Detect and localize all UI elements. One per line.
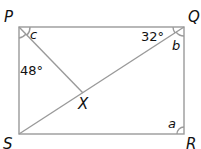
- angle-label-b: b: [172, 38, 180, 53]
- angle-arc-32: [173, 27, 175, 33]
- label-r: R: [186, 135, 196, 149]
- angle-arc-48: [19, 34, 26, 38]
- angle-arc-a: [177, 127, 184, 134]
- label-p: P: [4, 8, 14, 26]
- geometry-diagram: P Q S R X c 48° 32° b a: [0, 0, 201, 149]
- angle-label-c: c: [30, 27, 37, 42]
- angle-label-32: 32°: [141, 29, 164, 44]
- angle-label-48: 48°: [20, 63, 43, 78]
- label-q: Q: [188, 8, 200, 26]
- label-x: X: [77, 95, 89, 113]
- segment-px: [19, 27, 83, 93]
- angle-arc-b: [176, 32, 184, 36]
- angle-label-a: a: [168, 116, 176, 131]
- label-s: S: [3, 135, 13, 149]
